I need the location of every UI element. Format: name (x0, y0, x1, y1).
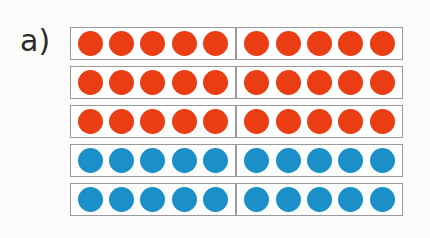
counter-chip-red (203, 109, 228, 134)
counter-chip-red (307, 70, 332, 95)
counter-chip-red (172, 70, 197, 95)
counter-chip-blue (370, 148, 395, 173)
counter-chip-red (140, 31, 165, 56)
counter-chip-blue (203, 148, 228, 173)
counter-bar-half-left (70, 144, 236, 177)
counter-bar-row (70, 183, 403, 216)
counter-chip-red (172, 31, 197, 56)
counter-chip-red (78, 109, 103, 134)
counter-chip-red (370, 109, 395, 134)
counter-bar-half-right (236, 27, 403, 60)
counter-chip-red (276, 31, 301, 56)
counter-bar-row (70, 66, 403, 99)
counter-chip-blue (338, 148, 363, 173)
counter-chip-red (203, 31, 228, 56)
counter-bar-half-right (236, 144, 403, 177)
counter-chip-red (244, 109, 269, 134)
counter-chip-blue (307, 148, 332, 173)
counter-chip-red (172, 109, 197, 134)
counter-chip-red (338, 109, 363, 134)
figure-root: a) (0, 0, 430, 238)
counter-chip-red (276, 109, 301, 134)
counter-chip-blue (172, 187, 197, 212)
counter-chip-red (203, 70, 228, 95)
counter-chip-red (370, 31, 395, 56)
counter-chip-red (338, 31, 363, 56)
counter-chip-blue (338, 187, 363, 212)
counter-chip-blue (244, 148, 269, 173)
counter-chip-blue (203, 187, 228, 212)
counter-chip-red (109, 31, 134, 56)
counter-bar-half-right (236, 105, 403, 138)
counter-chip-red (370, 70, 395, 95)
counter-bar-row (70, 27, 403, 60)
counter-bar-half-left (70, 66, 236, 99)
counter-chip-red (307, 31, 332, 56)
counter-bar-half-right (236, 66, 403, 99)
counter-chip-red (109, 109, 134, 134)
counter-chip-red (140, 109, 165, 134)
counter-chip-red (109, 70, 134, 95)
counter-bar-half-right (236, 183, 403, 216)
counter-chip-blue (78, 187, 103, 212)
counter-chip-blue (307, 187, 332, 212)
counter-bar-half-left (70, 105, 236, 138)
counter-chip-red (307, 109, 332, 134)
counter-chip-red (78, 70, 103, 95)
counter-chip-red (276, 70, 301, 95)
counter-chip-blue (370, 187, 395, 212)
counting-bars-stack (70, 27, 403, 216)
counter-chip-red (338, 70, 363, 95)
counter-chip-blue (172, 148, 197, 173)
part-label: a) (20, 20, 66, 62)
counter-chip-blue (276, 187, 301, 212)
counter-chip-red (244, 31, 269, 56)
counter-chip-blue (140, 187, 165, 212)
counter-chip-red (244, 70, 269, 95)
counter-bar-row (70, 144, 403, 177)
counter-bar-row (70, 105, 403, 138)
counter-chip-red (78, 31, 103, 56)
counter-chip-blue (140, 148, 165, 173)
counter-chip-blue (109, 187, 134, 212)
counter-chip-blue (276, 148, 301, 173)
counter-bar-half-left (70, 183, 236, 216)
counter-chip-blue (109, 148, 134, 173)
counter-chip-blue (78, 148, 103, 173)
counter-chip-red (140, 70, 165, 95)
counter-chip-blue (244, 187, 269, 212)
counter-bar-half-left (70, 27, 236, 60)
